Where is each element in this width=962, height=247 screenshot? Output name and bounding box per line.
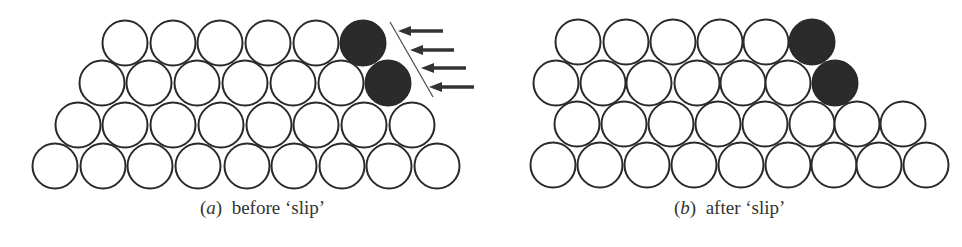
- atom-circle: [390, 103, 435, 148]
- atom-circle: [881, 102, 926, 147]
- atom-circle: [627, 61, 672, 106]
- atom-circle: [649, 102, 694, 147]
- atom-circle: [556, 20, 601, 65]
- atom-circle: [672, 143, 717, 188]
- atom-circle: [766, 143, 811, 188]
- force-arrow-head-icon: [410, 45, 423, 55]
- atom-circle: [581, 61, 626, 106]
- atom-circle: [602, 102, 647, 147]
- caption-b-letter: b: [680, 197, 690, 218]
- atom-circle: [651, 20, 696, 65]
- atom-circle: [904, 143, 949, 188]
- atom-circle: [415, 144, 460, 189]
- force-arrow-head-icon: [429, 82, 442, 92]
- slipped-atom-circle: [366, 61, 411, 106]
- atom-circle: [272, 144, 317, 189]
- force-arrow-head-icon: [398, 26, 411, 36]
- atom-circle: [81, 144, 126, 189]
- atom-circle: [721, 61, 766, 106]
- atom-circle: [225, 144, 270, 189]
- atom-circle: [342, 103, 387, 148]
- atom-circle: [247, 103, 292, 148]
- atom-circle: [127, 61, 172, 106]
- atom-circle: [319, 61, 364, 106]
- atom-circle: [812, 143, 857, 188]
- force-arrow-head-icon: [421, 63, 434, 73]
- atom-circle: [719, 143, 764, 188]
- atom-circle: [246, 21, 291, 66]
- atom-circle: [176, 144, 221, 189]
- atom-circle: [151, 103, 196, 148]
- atom-circle: [103, 103, 148, 148]
- slipped-atom-circle: [813, 61, 858, 106]
- atom-circle: [675, 61, 720, 106]
- atom-circle: [743, 102, 788, 147]
- atom-circle: [835, 102, 880, 147]
- atom-circle: [696, 102, 741, 147]
- atom-circle: [625, 143, 670, 188]
- atom-circle: [604, 20, 649, 65]
- atom-circle: [555, 102, 600, 147]
- atom-circle: [199, 103, 244, 148]
- slip-diagram: [0, 0, 962, 247]
- atom-circle: [294, 103, 339, 148]
- slipped-atom-circle: [341, 21, 386, 66]
- caption-a: (a) before ‘slip’: [200, 197, 325, 219]
- atom-circle: [790, 102, 835, 147]
- atom-circle: [294, 21, 339, 66]
- atom-circle: [367, 144, 412, 189]
- atom-circle: [80, 61, 125, 106]
- atom-circle: [534, 61, 579, 106]
- atom-circle: [103, 21, 148, 66]
- atom-circle: [766, 61, 811, 106]
- atom-circle: [744, 20, 789, 65]
- slipped-atom-circle: [790, 20, 835, 65]
- atom-circle: [56, 103, 101, 148]
- caption-b-text: after ‘slip’: [706, 197, 786, 218]
- atom-circle: [698, 20, 743, 65]
- atom-circle: [271, 61, 316, 106]
- atom-circle: [128, 144, 173, 189]
- atom-circle: [33, 144, 78, 189]
- atom-circle: [223, 61, 268, 106]
- caption-a-text: before ‘slip’: [232, 197, 325, 218]
- atom-circle: [857, 143, 902, 188]
- caption-b: (b) after ‘slip’: [674, 197, 785, 219]
- atom-circle: [578, 143, 623, 188]
- caption-a-letter: a: [206, 197, 216, 218]
- atom-circle: [175, 61, 220, 106]
- atom-circle: [151, 21, 196, 66]
- atom-circle: [320, 144, 365, 189]
- atom-circle: [198, 21, 243, 66]
- atom-circle: [531, 143, 576, 188]
